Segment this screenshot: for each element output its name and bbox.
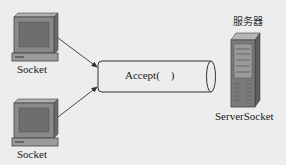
client-2-label: Socket <box>17 148 47 160</box>
arrow-client1-to-pipe <box>58 38 97 67</box>
computer-icon <box>12 13 58 61</box>
client-1-label: Socket <box>17 63 47 75</box>
computer-icon <box>12 99 58 146</box>
server-heading: 服务器 <box>233 13 263 28</box>
arrow-client2-to-pipe <box>58 87 97 117</box>
pipe-label: Accept( ) <box>125 69 174 81</box>
server-label: ServerSocket <box>215 110 274 122</box>
server-tower-icon <box>231 33 260 107</box>
